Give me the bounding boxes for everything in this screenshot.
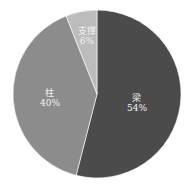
slice-label-column-pct: 40% [40,98,60,108]
slice-label-brace: 支撑 6% [78,26,96,46]
slice-label-brace-name: 支撑 [78,26,96,36]
pie-chart [0,0,193,188]
slice-label-column: 柱 40% [40,88,60,108]
slice-label-beam-pct: 54% [127,103,147,113]
slice-label-beam-name: 梁 [127,93,147,103]
slice-label-beam: 梁 54% [127,93,147,113]
slice-label-column-name: 柱 [40,88,60,98]
slice-label-brace-pct: 6% [78,36,96,46]
